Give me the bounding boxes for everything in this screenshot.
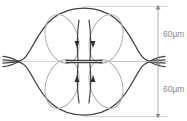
dimension-label-upper: 60µm [163, 29, 184, 39]
dimension-lower-group: 60µm [158, 62, 184, 116]
figure-canvas: 60µm 60µm [0, 0, 187, 121]
dimension-label-lower: 60µm [163, 84, 184, 94]
outer-envelope-lower [18, 62, 150, 115]
beam-envelope-diagram: 60µm 60µm [0, 0, 187, 121]
dimension-upper-group: 60µm [158, 7, 184, 61]
outer-envelope-upper [18, 8, 150, 61]
